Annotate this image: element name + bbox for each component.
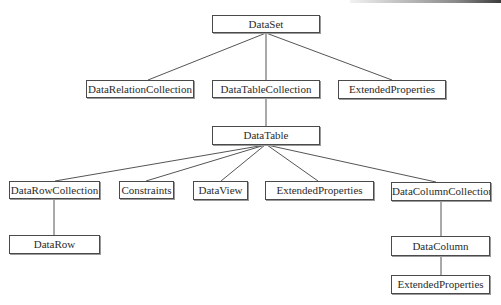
node-datarowcollection: DataRowCollection (9, 181, 100, 199)
node-datacolumncollection: DataColumnCollection (391, 182, 491, 201)
node-datarelationcollection: DataRelationCollection (86, 80, 194, 98)
node-datatable: DataTable (212, 126, 320, 145)
edge-datatable-to-dataview (221, 145, 265, 181)
node-datarow: DataRow (9, 235, 100, 254)
node-datatablecollection: DataTableCollection (212, 80, 320, 98)
edge-datatable-to-datarowcollection (55, 145, 265, 181)
connector-lines (0, 0, 501, 305)
node-extendedproperties-dataset: ExtendedProperties (338, 80, 446, 99)
node-constraints: Constraints (119, 181, 174, 199)
edge-dataset-to-datarelationcollection (148, 33, 266, 80)
node-extendedproperties-datacolumn: ExtendedProperties (391, 275, 490, 294)
diagram-canvas: DataSetDataRelationCollectionDataTableCo… (0, 0, 501, 305)
node-dataview: DataView (193, 181, 248, 200)
edge-datatable-to-constraints (146, 145, 265, 181)
node-datacolumn: DataColumn (391, 236, 490, 256)
edge-dataset-to-extendedproperties-dataset (266, 33, 392, 80)
node-dataset: DataSet (212, 15, 320, 33)
node-extendedproperties-datatable: ExtendedProperties (265, 181, 374, 200)
